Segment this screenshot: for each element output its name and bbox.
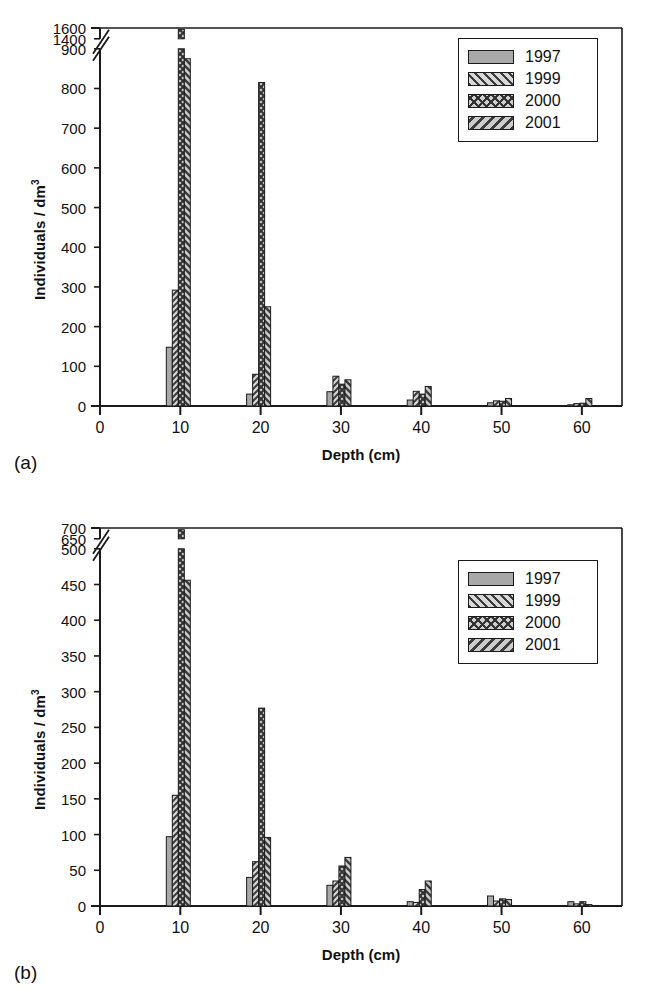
bar (506, 900, 512, 906)
bar (419, 394, 425, 406)
x-tick-label: 60 (573, 419, 591, 437)
bar (580, 403, 586, 406)
bar (166, 837, 172, 906)
bar (178, 530, 184, 539)
x-tick-label: 0 (96, 419, 105, 437)
bar (178, 29, 184, 38)
legend-item-2000: 2000 (468, 612, 587, 634)
bar (265, 837, 271, 906)
y-tick-label: 450 (0, 576, 86, 593)
bar (494, 901, 500, 906)
x-tick-label: 20 (252, 919, 270, 937)
y-tick-label: 200 (0, 755, 86, 772)
x-tick-label: 60 (573, 919, 591, 937)
y-tick-label: 50 (0, 862, 86, 879)
bar (425, 387, 431, 406)
bar (265, 307, 271, 406)
legend-item-1997: 1997 (468, 568, 587, 590)
legend-swatch-icon (468, 638, 514, 652)
bar (413, 391, 419, 406)
bar (333, 881, 339, 906)
x-tick-label: 50 (493, 919, 511, 937)
legend-a: 1997199920002001 (458, 38, 598, 142)
bar (586, 398, 592, 406)
bar (407, 400, 413, 406)
legend-label: 1999 (525, 71, 561, 87)
y-tick-label: 1600 (0, 20, 86, 37)
x-tick-label: 40 (412, 419, 430, 437)
bar (574, 404, 580, 406)
bar (580, 902, 586, 906)
legend-item-2001: 2001 (468, 634, 587, 656)
y-tick-label: 300 (0, 683, 86, 700)
y-tick-label: 600 (0, 159, 86, 176)
x-tick-label: 50 (493, 419, 511, 437)
bar (178, 49, 184, 406)
bar (247, 394, 253, 406)
bar (259, 708, 265, 906)
legend-swatch-icon (468, 50, 514, 64)
x-tick-label: 30 (332, 919, 350, 937)
y-tick-label: 0 (0, 398, 86, 415)
legend-label: 2000 (525, 93, 561, 109)
x-axis-label-a: Depth (cm) (261, 446, 461, 463)
legend-b: 1997199920002001 (458, 560, 598, 664)
bar (253, 862, 259, 906)
y-tick-label: 700 (0, 120, 86, 137)
bar (494, 401, 500, 406)
bar (172, 290, 178, 406)
y-tick-label: 350 (0, 647, 86, 664)
y-tick-label: 300 (0, 278, 86, 295)
legend-label: 1997 (525, 49, 561, 65)
legend-swatch-icon (468, 94, 514, 108)
panel-tag-b: (b) (14, 962, 37, 984)
x-tick-label: 10 (171, 919, 189, 937)
y-tick-label: 0 (0, 898, 86, 915)
bar (506, 398, 512, 406)
bar (339, 866, 345, 906)
y-tick-label: 400 (0, 239, 86, 256)
chart-panel-a: Individuals / dm3 Depth (cm) (a) 1997199… (0, 0, 646, 500)
bar (488, 403, 494, 406)
y-tick-label: 500 (0, 199, 86, 216)
y-tick-label: 400 (0, 612, 86, 629)
bar (488, 896, 494, 906)
legend-label: 1997 (525, 571, 561, 587)
bar (419, 890, 425, 906)
bar (178, 549, 184, 906)
legend-swatch-icon (468, 572, 514, 586)
bar (345, 857, 351, 906)
bar (172, 795, 178, 906)
bar (327, 885, 333, 906)
bar (345, 380, 351, 406)
bar (574, 904, 580, 906)
legend-swatch-icon (468, 116, 514, 130)
plot-area-b: Individuals / dm3 Depth (cm) (b) 1997199… (0, 500, 646, 1000)
y-tick-label: 200 (0, 318, 86, 335)
bar (247, 877, 253, 906)
bar (259, 83, 265, 406)
y-tick-label: 700 (0, 520, 86, 537)
plot-area-a: Individuals / dm3 Depth (cm) (a) 1997199… (0, 0, 646, 500)
bar (184, 59, 190, 406)
bar (166, 347, 172, 406)
bar (568, 902, 574, 906)
bar (500, 401, 506, 406)
bar (407, 902, 413, 906)
legend-label: 1999 (525, 593, 561, 609)
bar (568, 405, 574, 406)
x-tick-label: 20 (252, 419, 270, 437)
y-tick-label: 150 (0, 790, 86, 807)
bar (333, 376, 339, 406)
legend-swatch-icon (468, 594, 514, 608)
x-tick-label: 0 (96, 919, 105, 937)
bar (586, 905, 592, 906)
y-tick-label: 100 (0, 358, 86, 375)
panel-tag-a: (a) (14, 452, 37, 474)
legend-label: 2000 (525, 615, 561, 631)
legend-item-1999: 1999 (468, 68, 587, 90)
x-tick-label: 40 (412, 919, 430, 937)
bar (413, 902, 419, 906)
legend-item-2000: 2000 (468, 90, 587, 112)
bar (327, 392, 333, 406)
